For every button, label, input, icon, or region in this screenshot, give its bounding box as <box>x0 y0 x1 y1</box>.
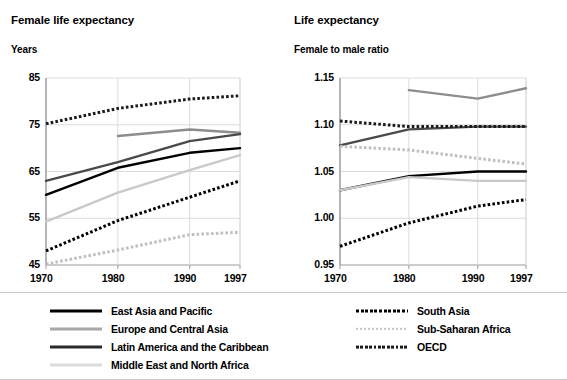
y-tick-label: 1.00 <box>283 211 334 223</box>
legend-item[interactable]: Europe and Central Asia <box>50 320 268 338</box>
series-latin-america-and-the-caribbean <box>46 134 240 181</box>
right-chart-title: Life expectancy <box>294 14 379 26</box>
left-chart-title: Female life expectancy <box>11 14 134 26</box>
legend-swatch-sub-saharan-africa <box>356 323 408 335</box>
y-tick-label: 55 <box>0 211 40 223</box>
legend-label: South Asia <box>417 305 469 317</box>
series-middle-east-and-north-africa <box>46 155 240 221</box>
y-tick-label: 75 <box>0 118 40 130</box>
legend-label: Latin America and the Caribbean <box>111 341 268 353</box>
panel-female-life-expectancy: Female life expectancy Years East Asia a… <box>0 0 283 380</box>
x-tick-label: 1980 <box>102 272 125 284</box>
y-tick-label: 45 <box>0 258 40 270</box>
x-tick-label: 1980 <box>393 272 416 284</box>
series-south-asia <box>46 181 240 251</box>
legend-swatch-oecd <box>356 341 408 353</box>
x-tick-label: 1970 <box>30 272 53 284</box>
legend-label: Europe and Central Asia <box>111 323 228 335</box>
right-chart-legend: South Asia Sub-Saharan Africa OECD <box>356 302 510 356</box>
panel-life-expectancy-ratio: Life expectancy Female to male ratio Sou… <box>283 0 566 380</box>
series-sub-saharan-africa <box>46 232 240 264</box>
legend-item[interactable]: Middle East and North Africa <box>50 356 268 374</box>
legend-label: Middle East and North Africa <box>111 359 249 371</box>
x-tick-label: 1990 <box>174 272 197 284</box>
legend-label: OECD <box>417 341 447 353</box>
x-tick-label: 1990 <box>462 272 485 284</box>
y-tick-label: 1.10 <box>283 118 334 130</box>
legend-swatch-east-asia-and-pacific <box>50 305 102 317</box>
legend-item[interactable]: OECD <box>356 338 510 356</box>
left-chart-unit-label: Years <box>11 44 37 55</box>
series-south-asia <box>340 200 526 247</box>
legend-item[interactable]: Latin America and the Caribbean <box>50 338 268 356</box>
series-europe-and-central-asia <box>409 88 526 98</box>
y-tick-label: 65 <box>0 165 40 177</box>
y-tick-label: 85 <box>0 71 40 83</box>
x-tick-label: 1997 <box>224 272 247 284</box>
legend-swatch-south-asia <box>356 305 408 317</box>
series-oecd <box>46 96 240 124</box>
legend-label: Sub-Saharan Africa <box>417 323 510 335</box>
left-chart-plot <box>0 60 283 275</box>
legend-item[interactable]: South Asia <box>356 302 510 320</box>
legend-divider-top <box>0 292 567 293</box>
series-latin-america-and-the-caribbean <box>340 127 526 146</box>
y-tick-label: 1.15 <box>283 71 334 83</box>
y-tick-label: 1.05 <box>283 165 334 177</box>
right-chart-unit-label: Female to male ratio <box>294 44 389 55</box>
legend-swatch-latin-america-and-the-caribbean <box>50 341 102 353</box>
series-sub-saharan-africa <box>340 146 526 164</box>
chart-page: Female life expectancy Years East Asia a… <box>0 0 567 380</box>
legend-swatch-middle-east-and-north-africa <box>50 359 102 371</box>
x-tick-label: 1970 <box>324 272 347 284</box>
legend-item[interactable]: East Asia and Pacific <box>50 302 268 320</box>
y-tick-label: 0.95 <box>283 258 334 270</box>
legend-label: East Asia and Pacific <box>111 305 212 317</box>
legend-swatch-europe-and-central-asia <box>50 323 102 335</box>
left-chart-legend: East Asia and Pacific Europe and Central… <box>50 302 268 374</box>
x-tick-label: 1997 <box>510 272 533 284</box>
series-europe-and-central-asia <box>118 129 240 136</box>
legend-item[interactable]: Sub-Saharan Africa <box>356 320 510 338</box>
